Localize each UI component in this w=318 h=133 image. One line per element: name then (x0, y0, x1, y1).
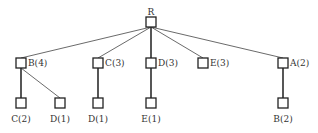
tree-node-d1 (55, 98, 65, 108)
tree-node-r (146, 17, 156, 27)
node-label: B(4) (28, 58, 47, 68)
edge-root-0 (21, 27, 151, 58)
node-label: B(2) (273, 114, 292, 124)
node-label: A(2) (289, 58, 309, 68)
edge-root-1 (98, 27, 151, 58)
node-label: E(3) (210, 58, 229, 68)
nodes: RB(4)C(3)D(3)E(3)A(2)C(2)D(1)D(1)E(1)B(2… (11, 7, 309, 124)
tree-node-c3 (93, 58, 103, 68)
node-label: C(3) (105, 58, 125, 68)
tree-node-a2 (278, 58, 288, 68)
tree-diagram: RB(4)C(3)D(3)E(3)A(2)C(2)D(1)D(1)E(1)B(2… (0, 0, 318, 133)
tree-node-e3 (198, 58, 208, 68)
node-label: E(1) (141, 114, 160, 124)
node-label: D(1) (88, 114, 108, 124)
node-label: R (148, 7, 155, 17)
edge-root-4 (151, 27, 283, 58)
tree-node-b4 (16, 58, 26, 68)
edge-root-3 (151, 27, 203, 58)
tree-node-d3 (146, 58, 156, 68)
tree-node-b2 (278, 98, 288, 108)
tree-node-c2 (16, 98, 26, 108)
tree-node-d1 (93, 98, 103, 108)
edge-l2-1 (21, 68, 60, 98)
node-label: D(3) (158, 58, 178, 68)
node-label: D(1) (50, 114, 70, 124)
tree-node-e1 (146, 98, 156, 108)
node-label: C(2) (11, 114, 31, 124)
